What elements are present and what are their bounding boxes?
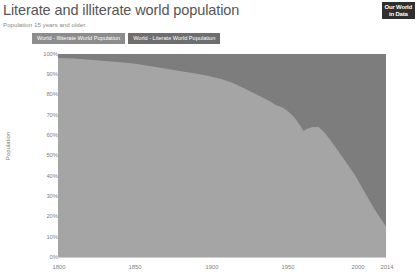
x-axis-line [58, 257, 386, 258]
x-tick-label: 2014 [372, 264, 402, 271]
y-tick-label: 80% [28, 91, 58, 97]
y-tick-label: 20% [28, 213, 58, 219]
stacked-area-plot [58, 54, 386, 257]
y-tick-label: 30% [28, 193, 58, 199]
chart-page: Literate and illiterate world population… [0, 0, 417, 280]
y-axis-ticks: 100% 90% 80% 70% 60% 50% 40% 30% 20% 10%… [28, 0, 58, 280]
x-tick-label: 1850 [120, 264, 150, 271]
y-tick-label: 40% [28, 173, 58, 179]
y-tick-label: 90% [28, 71, 58, 77]
y-tick-label: 70% [28, 112, 58, 118]
y-axis-title: Population [5, 132, 11, 160]
y-tick-label: 10% [28, 234, 58, 240]
x-tick-label: 1950 [273, 264, 303, 271]
x-tick-label: 2000 [343, 264, 373, 271]
x-tick-label: 1800 [44, 264, 74, 271]
y-tick-label: 0% [28, 254, 58, 260]
y-tick-label: 60% [28, 132, 58, 138]
x-tick-label: 1900 [197, 264, 227, 271]
y-tick-label: 50% [28, 152, 58, 158]
chart-plot-area: Population 100% 90% 80% 70% 60% 50% 40% [0, 0, 417, 280]
y-tick-label: 100% [28, 51, 58, 57]
